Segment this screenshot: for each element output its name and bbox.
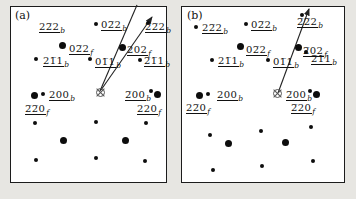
hkl-indices: 02̅2	[101, 19, 122, 31]
hkl-label-b: 21̅1b	[218, 55, 244, 66]
hkl-label-a: 02̅2b	[101, 19, 127, 30]
diffraction-spot-small	[308, 89, 312, 93]
diffraction-spot-large	[225, 140, 232, 147]
diffraction-spot-small	[309, 125, 313, 129]
phase-subscript: b	[332, 58, 337, 67]
diffraction-spot-large	[119, 44, 126, 51]
hkl-indices: 21̅1	[43, 55, 64, 67]
hkl-indices: 22̅2	[39, 21, 60, 33]
hkl-label-b: 02̅2b	[251, 19, 277, 30]
hkl-indices: 02̅2	[69, 43, 90, 55]
hkl-label-b: 2̅20f	[291, 102, 315, 113]
diffraction-spot-small	[41, 92, 45, 96]
phase-subscript: b	[166, 26, 171, 35]
hkl-indices: 200	[217, 89, 238, 101]
phase-subscript: b	[64, 60, 69, 69]
diffraction-spot-large	[237, 43, 244, 50]
phase-subscript: f	[207, 107, 210, 116]
diffraction-spot-large	[154, 91, 161, 98]
hkl-label-b: 22̅2b	[202, 22, 228, 33]
phase-subscript: f	[46, 108, 49, 117]
diffraction-spot-small	[206, 92, 210, 96]
hkl-indices: 2̅00	[125, 89, 146, 101]
diffraction-spot-small	[208, 133, 212, 137]
diffraction-spot-large	[60, 137, 67, 144]
diffraction-spot-large	[282, 139, 289, 146]
diffraction-spot-small	[94, 156, 98, 160]
hkl-label-b: 22̅0f	[186, 102, 210, 113]
hkl-label-a: 02̅2f	[69, 43, 93, 54]
hkl-indices: 01̅1	[273, 56, 294, 68]
diffraction-spot-small	[94, 120, 98, 124]
hkl-indices: 2̅20	[291, 102, 312, 114]
transmitted-beam-marker	[96, 88, 105, 97]
diffraction-spot-large	[59, 42, 66, 49]
diffraction-spot-small	[304, 50, 308, 54]
hkl-label-a: 22̅2b	[39, 21, 65, 32]
diffraction-spot-small	[210, 58, 214, 62]
phase-subscript: b	[238, 94, 243, 103]
diffraction-spot-small	[259, 129, 263, 133]
phase-subscript: f	[267, 49, 270, 58]
hkl-label-a: 2̅1̅1b	[144, 55, 170, 66]
hkl-indices: 2̅2̅2	[297, 16, 318, 28]
hkl-indices: 2̅1̅1	[311, 53, 332, 65]
diffraction-spot-small	[244, 22, 248, 26]
hkl-indices: 220	[137, 103, 158, 115]
hkl-label-a: 202f	[127, 44, 151, 55]
diffraction-spot-small	[260, 164, 264, 168]
hkl-label-b: 2̅1̅1b	[311, 53, 337, 64]
hkl-label-b: 01̅1b	[273, 56, 299, 67]
hkl-indices: 200	[49, 89, 70, 101]
diffraction-spot-small	[138, 58, 142, 62]
hkl-indices: 02̅2	[251, 19, 272, 31]
phase-subscript: b	[116, 61, 121, 70]
hkl-label-a: 220f	[137, 103, 161, 114]
diffraction-spot-small	[94, 22, 98, 26]
diffraction-spot-large	[295, 44, 302, 51]
phase-subscript: b	[165, 60, 170, 69]
hkl-label-a: 2̅2̅0f	[25, 103, 49, 114]
diffraction-spot-large	[196, 92, 203, 99]
hkl-indices: 02̅2	[246, 44, 267, 56]
panel-a-tag: (a)	[15, 10, 30, 22]
phase-subscript: b	[60, 26, 65, 35]
phase-subscript: f	[312, 107, 315, 116]
hkl-indices: 2̅00	[286, 89, 307, 101]
diffraction-spot-small	[300, 13, 304, 17]
hkl-label-a: 01̅1b	[95, 56, 121, 67]
phase-subscript: b	[294, 61, 299, 70]
phase-subscript: b	[122, 24, 127, 33]
diffraction-spot-small	[266, 58, 270, 62]
phase-subscript: b	[318, 21, 323, 30]
panel-b-tag: (b)	[187, 10, 203, 22]
phase-subscript: f	[90, 48, 93, 57]
hkl-indices: 22̅2	[202, 22, 223, 34]
diffraction-spot-small	[34, 57, 38, 61]
diffraction-spot-small	[143, 159, 147, 163]
diffraction-spot-small	[211, 168, 215, 172]
diffraction-spot-small	[88, 57, 92, 61]
hkl-indices: 2̅2̅0	[25, 103, 46, 115]
diffraction-spot-large	[313, 91, 320, 98]
diffraction-spot-small	[33, 121, 37, 125]
diffraction-spot-small	[146, 21, 150, 25]
hkl-label-b: 02̅2f	[246, 44, 270, 55]
diffraction-spot-large	[122, 137, 129, 144]
hkl-label-b: 2̅2̅2b	[297, 16, 323, 27]
diffraction-spot-small	[149, 89, 153, 93]
hkl-indices: 21̅1	[218, 55, 239, 67]
phase-subscript: b	[146, 94, 151, 103]
figure: (a) (b) 22̅2b02̅2b2̅2̅2b02̅2f202f21̅1b01…	[0, 0, 356, 199]
hkl-indices: 01̅1	[95, 56, 116, 68]
diffraction-spot-small	[311, 159, 315, 163]
diffraction-spot-small	[144, 121, 148, 125]
diffraction-spot-large	[31, 92, 38, 99]
hkl-label-a: 2̅00b	[125, 89, 151, 100]
phase-subscript: f	[158, 108, 161, 117]
phase-subscript: b	[70, 94, 75, 103]
hkl-label-a: 21̅1b	[43, 55, 69, 66]
transmitted-beam-marker	[273, 89, 282, 98]
hkl-indices: 2̅1̅1	[144, 55, 165, 67]
hkl-label-a: 200b	[49, 89, 75, 100]
